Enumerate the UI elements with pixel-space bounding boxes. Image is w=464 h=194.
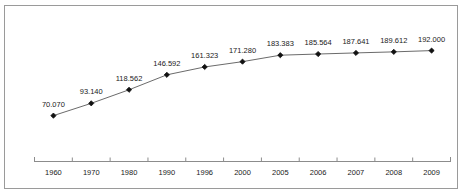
x-axis-tick-label: 2008	[374, 168, 414, 177]
x-axis-tick-label: 2000	[223, 168, 263, 177]
x-axis-tick-label: 2005	[260, 168, 300, 177]
data-point-marker	[164, 72, 169, 77]
data-point-marker	[202, 64, 207, 69]
data-point-label: 187.641	[336, 37, 376, 46]
data-point-marker	[353, 50, 358, 55]
line-chart-svg	[5, 6, 458, 189]
data-markers	[51, 48, 434, 118]
data-point-marker	[278, 53, 283, 58]
x-axis-tick-label: 2006	[298, 168, 338, 177]
data-point-label: 183.383	[260, 39, 300, 48]
x-axis-tick-label: 1960	[33, 168, 73, 177]
x-axis-tick-label: 1990	[147, 168, 187, 177]
x-axis-tick-label: 1970	[71, 168, 111, 177]
data-point-label: 161.323	[185, 51, 225, 60]
data-point-label: 70.070	[33, 100, 73, 109]
data-point-label: 118.562	[109, 74, 149, 83]
data-point-label: 189.612	[374, 36, 414, 45]
x-axis-tick-label: 2009	[412, 168, 452, 177]
plot-area: 70.07093.140118.562146.592161.323171.280…	[5, 6, 458, 189]
data-point-marker	[391, 49, 396, 54]
data-point-marker	[126, 87, 131, 92]
data-point-label: 185.564	[298, 38, 338, 47]
data-point-marker	[89, 101, 94, 106]
data-point-label: 171.280	[223, 46, 263, 55]
data-point-marker	[51, 113, 56, 118]
data-point-label: 93.140	[71, 87, 111, 96]
x-axis-tick-label: 1996	[185, 168, 225, 177]
data-point-label: 146.592	[147, 59, 187, 68]
data-point-marker	[316, 51, 321, 56]
data-point-marker	[429, 48, 434, 53]
x-axis-ticks	[72, 158, 412, 162]
chart-frame: 70.07093.140118.562146.592161.323171.280…	[4, 5, 458, 189]
x-axis-tick-label: 2007	[336, 168, 376, 177]
data-point-marker	[240, 59, 245, 64]
x-axis-tick-label: 1980	[109, 168, 149, 177]
data-point-label: 192.000	[412, 35, 452, 44]
